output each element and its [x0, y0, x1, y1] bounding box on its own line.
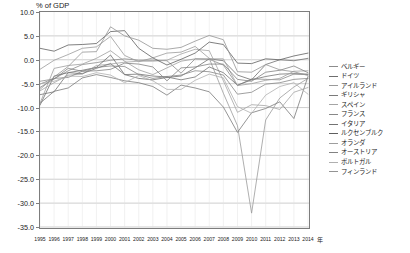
series-line	[40, 75, 308, 133]
y-axis-tick-mark	[36, 203, 39, 204]
x-axis-tick-label: 1996	[48, 236, 59, 242]
legend-color-swatch	[329, 143, 338, 144]
y-axis-tick-mark	[36, 179, 39, 180]
y-axis-tick-label: 0.0	[0, 55, 34, 64]
y-axis-tick-label: -20.0	[0, 151, 34, 160]
legend-color-swatch	[329, 114, 338, 115]
legend-color-swatch	[329, 85, 338, 86]
y-axis-tick-label: -25.0	[0, 175, 34, 184]
x-axis-tick-label: 2008	[218, 236, 229, 242]
legend-item[interactable]: ベルギー	[329, 62, 410, 72]
legend-color-swatch	[329, 104, 338, 105]
y-axis-tick-label: -5.0	[0, 79, 34, 88]
deficit-gdp-line-chart: % of GDP 10.05.00.0-5.0-10.0-15.0-20.0-2…	[0, 0, 410, 253]
legend-item[interactable]: フランス	[329, 110, 410, 120]
legend-color-swatch	[329, 124, 338, 125]
legend-label: アイルランド	[341, 83, 377, 89]
x-axis-tick-label: 2013	[288, 236, 299, 242]
legend-color-swatch	[329, 133, 338, 134]
legend-color-swatch	[329, 162, 338, 163]
legend-color-swatch	[329, 76, 338, 77]
legend-label: ギリシャ	[341, 92, 365, 98]
legend-item[interactable]: オーストリア	[329, 148, 410, 158]
legend-item[interactable]: ギリシャ	[329, 91, 410, 101]
x-axis-tick-label: 2011	[260, 236, 271, 242]
legend-item[interactable]: ドイツ	[329, 72, 410, 82]
legend-label: ベルギー	[341, 64, 365, 70]
y-axis-tick-mark	[36, 36, 39, 37]
legend-label: オランダ	[341, 140, 365, 146]
x-axis-tick-label: 2005	[175, 236, 186, 242]
y-axis-tick-mark	[36, 84, 39, 85]
legend-label: ポルトガル	[341, 159, 371, 165]
y-axis-tick-label: -35.0	[0, 223, 34, 232]
legend-label: フランス	[341, 111, 365, 117]
y-axis-tick-label: -10.0	[0, 103, 34, 112]
x-axis-tick-label: 1997	[63, 236, 74, 242]
y-axis-tick-mark	[36, 131, 39, 132]
legend-label: フィンランド	[341, 169, 377, 175]
y-axis-tick-label: 5.0	[0, 31, 34, 40]
y-axis-tick-mark	[36, 227, 39, 228]
legend-label: イタリア	[341, 121, 365, 127]
legend-label: ドイツ	[341, 73, 359, 79]
y-axis-tick-mark	[36, 60, 39, 61]
legend-item[interactable]: ポルトガル	[329, 157, 410, 167]
x-axis-tick-label: 2007	[204, 236, 215, 242]
y-axis-title: % of GDP	[36, 1, 69, 10]
legend-item[interactable]: アイルランド	[329, 81, 410, 91]
x-axis-tick-label: 2006	[189, 236, 200, 242]
x-axis-tick-label: 2009	[232, 236, 243, 242]
legend-label: オーストリア	[341, 149, 377, 155]
legend-item[interactable]: オランダ	[329, 138, 410, 148]
x-axis-tick-label: 1998	[77, 236, 88, 242]
legend-label: ルクセンブルク	[341, 130, 383, 136]
legend-color-swatch	[329, 152, 338, 153]
legend-color-swatch	[329, 66, 338, 67]
x-axis-tick-label: 1995	[34, 236, 45, 242]
y-axis-tick-label: -30.0	[0, 199, 34, 208]
legend-item[interactable]: ルクセンブルク	[329, 129, 410, 139]
x-axis-tick-label: 1999	[91, 236, 102, 242]
x-axis-tick-label: 2002	[133, 236, 144, 242]
legend-color-swatch	[329, 95, 338, 96]
legend-item[interactable]: イタリア	[329, 119, 410, 129]
y-axis-tick-label: 10.0	[0, 8, 34, 17]
y-axis-tick-mark	[36, 12, 39, 13]
legend-item[interactable]: フィンランド	[329, 167, 410, 177]
x-axis-tick-label: 2001	[119, 236, 130, 242]
legend-item[interactable]: スペイン	[329, 100, 410, 110]
chart-legend: ベルギードイツアイルランドギリシャスペインフランスイタリアルクセンブルクオランダ…	[329, 62, 410, 177]
y-axis-tick-label: -15.0	[0, 127, 34, 136]
x-axis-tick-label: 2003	[147, 236, 158, 242]
plot-area	[39, 11, 310, 229]
series-line	[40, 36, 308, 213]
legend-label: スペイン	[341, 102, 365, 108]
x-axis-tick-label: 2012	[274, 236, 285, 242]
x-axis-tick-label: 2004	[161, 236, 172, 242]
x-axis-tick-label: 2000	[105, 236, 116, 242]
plot-lines	[40, 12, 309, 228]
y-axis-tick-mark	[36, 108, 39, 109]
x-axis-tick-label: 2010	[246, 236, 257, 242]
y-axis-tick-mark	[36, 155, 39, 156]
x-axis-tick-label: 2014	[302, 236, 313, 242]
legend-color-swatch	[329, 171, 338, 172]
x-axis-unit-label: 年	[317, 235, 323, 244]
